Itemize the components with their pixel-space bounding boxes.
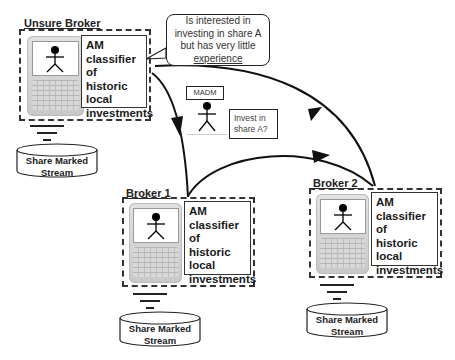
phone-icon [129, 203, 182, 283]
classifier-line: investments [86, 107, 142, 121]
question-line: Invest in [234, 113, 273, 124]
stick-figure-icon [33, 42, 78, 75]
unsure-broker-stream-label: Share Marked Stream [16, 155, 98, 179]
stream-line: Share Marked [16, 155, 98, 167]
ground-symbol [146, 307, 154, 309]
ground-symbol [140, 300, 160, 302]
phone-screen [320, 199, 366, 234]
stream-line: Share Marked [119, 323, 201, 335]
broker2-stream-label: Share Marked Stream [306, 314, 388, 338]
question-line: share A? [234, 124, 273, 135]
ground-symbol [327, 291, 347, 293]
unsure-broker-classifier-box: AM classifier of historic local investme… [81, 35, 147, 108]
phone-icon [27, 36, 84, 116]
classifier-line: classifier of [376, 210, 433, 237]
arrowhead-to-unsure [308, 107, 322, 121]
broker1-classifier-box: AM classifier of historic local investme… [184, 201, 251, 275]
classifier-line: classifier of [189, 219, 246, 246]
classifier-line: AM [189, 205, 246, 219]
stream-line: Stream [306, 326, 388, 338]
unsure-broker-title: Unsure Broker [24, 17, 100, 29]
thought-line: but has very little [167, 40, 269, 53]
madm-question-box: Invest in share A? [229, 109, 278, 139]
ground-symbol [37, 132, 57, 134]
thought-bubble: Is interested in investing in share A bu… [166, 14, 270, 66]
phone-icon [316, 194, 369, 274]
thought-line: experience [167, 53, 269, 66]
madm-base [187, 134, 227, 135]
classifier-line: AM [86, 39, 142, 53]
classifier-line: local [189, 259, 246, 273]
classifier-line: AM [376, 196, 433, 210]
phone-screen [133, 208, 179, 243]
classifier-line: local [86, 93, 142, 107]
thought-line: investing in share A [167, 28, 269, 41]
ground-symbol [133, 293, 167, 295]
classifier-line: investments [189, 273, 246, 287]
phone-keyboard [32, 80, 79, 110]
stick-figure-icon [321, 200, 365, 233]
ground-symbol [320, 284, 354, 286]
ground-symbol [30, 125, 64, 127]
madm-label: MADM [186, 86, 224, 100]
classifier-line: historic [86, 80, 142, 94]
classifier-line: classifier of [86, 53, 142, 80]
phone-screen [32, 41, 79, 76]
madm-stick-figure-icon [193, 101, 223, 134]
classifier-line: investments [376, 264, 433, 278]
edge-unsure-to-broker1 [152, 73, 188, 197]
broker1-stream-label: Share Marked Stream [119, 323, 201, 347]
thought-line: Is interested in [167, 15, 269, 28]
stick-figure-icon [134, 209, 178, 242]
classifier-line: local [376, 250, 433, 264]
phone-keyboard [133, 247, 178, 277]
stream-line: Share Marked [306, 314, 388, 326]
ground-symbol [43, 139, 51, 141]
classifier-line: historic [376, 237, 433, 251]
classifier-line: historic [189, 246, 246, 260]
broker2-classifier-box: AM classifier of historic local investme… [371, 192, 438, 266]
stream-line: Stream [119, 335, 201, 347]
phone-keyboard [320, 238, 365, 268]
ground-symbol [333, 298, 341, 300]
stream-line: Stream [16, 167, 98, 179]
